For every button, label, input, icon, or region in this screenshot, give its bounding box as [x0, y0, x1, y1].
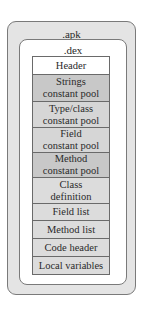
section-label: Code header: [45, 242, 98, 254]
section-code-header: Code header: [33, 239, 109, 257]
section-label: Local variables: [39, 260, 103, 272]
section-class-definition: Classdefinition: [33, 178, 109, 204]
section-label: Method list: [47, 224, 95, 236]
section-label: Type/classconstant pool: [43, 103, 99, 127]
section-label: Field list: [52, 206, 89, 218]
section-field-list: Field list: [33, 204, 109, 221]
section-method-constant-pool: Methodconstant pool: [33, 153, 109, 178]
dex-label: .dex: [20, 44, 126, 56]
section-strings-constant-pool: Stringsconstant pool: [33, 75, 109, 102]
section-header: Header: [33, 57, 109, 75]
section-field-constant-pool: Fieldconstant pool: [33, 128, 109, 153]
section-method-list: Method list: [33, 221, 109, 239]
section-label: Classdefinition: [51, 179, 92, 203]
section-label: Header: [56, 60, 86, 72]
section-local-variables: Local variables: [33, 257, 109, 274]
section-label: Fieldconstant pool: [43, 128, 99, 152]
section-type-class-constant-pool: Type/classconstant pool: [33, 102, 109, 128]
section-label: Methodconstant pool: [43, 153, 99, 177]
section-label: Stringsconstant pool: [43, 76, 99, 100]
dex-sections-stack: Header Stringsconstant pool Type/classco…: [32, 56, 110, 275]
